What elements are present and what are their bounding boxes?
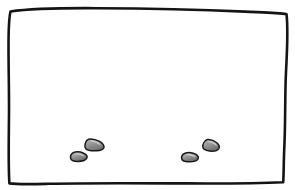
pebble-right-lower: [182, 153, 199, 162]
pebble-left-lower: [71, 152, 88, 161]
sketch-svg: [0, 0, 295, 190]
room-border-frame: [9, 8, 288, 184]
pebble-left-lower-body: [71, 152, 88, 161]
illustration-canvas: [0, 0, 295, 190]
pebble-right-lower-body: [182, 153, 199, 162]
